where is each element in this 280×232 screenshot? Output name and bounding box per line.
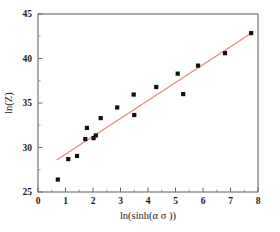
data-point bbox=[132, 113, 136, 117]
data-point bbox=[115, 105, 119, 109]
x-axis-major-ticks bbox=[38, 188, 258, 193]
x-axis-title: ln(sinh(α σ )) bbox=[120, 210, 177, 222]
x-tick-label: 5 bbox=[173, 196, 178, 206]
data-point bbox=[196, 64, 200, 68]
y-tick-label: 45 bbox=[23, 9, 33, 19]
x-tick-label: 2 bbox=[91, 196, 96, 206]
y-tick-label: 40 bbox=[23, 54, 33, 64]
plot-frame bbox=[38, 14, 258, 192]
x-tick-label: 8 bbox=[256, 196, 261, 206]
data-point bbox=[223, 51, 227, 55]
y-tick-label: 25 bbox=[23, 187, 33, 197]
data-point-markers bbox=[56, 31, 254, 182]
x-axis-tick-labels: 012345678 bbox=[36, 196, 261, 206]
x-tick-label: 4 bbox=[146, 196, 151, 206]
y-axis-major-ticks bbox=[38, 14, 43, 192]
data-point bbox=[56, 177, 60, 181]
data-point bbox=[99, 116, 103, 120]
y-tick-label: 35 bbox=[23, 98, 33, 108]
data-point bbox=[181, 92, 185, 96]
scatter-plot: 012345678 2530354045 ln(sinh(α σ )) ln(Z… bbox=[0, 0, 280, 232]
x-tick-label: 3 bbox=[118, 196, 123, 206]
data-point bbox=[75, 154, 79, 158]
data-point bbox=[83, 137, 87, 141]
data-point bbox=[176, 72, 180, 76]
y-tick-label: 30 bbox=[23, 143, 33, 153]
x-tick-label: 7 bbox=[228, 196, 233, 206]
chart-figure: 012345678 2530354045 ln(sinh(α σ )) ln(Z… bbox=[0, 0, 280, 232]
data-point bbox=[132, 92, 136, 96]
data-point bbox=[66, 157, 70, 161]
y-axis-tick-labels: 2530354045 bbox=[23, 9, 33, 197]
x-tick-label: 0 bbox=[36, 196, 41, 206]
x-tick-label: 1 bbox=[63, 196, 68, 206]
data-point bbox=[85, 126, 89, 130]
x-tick-label: 6 bbox=[201, 196, 206, 206]
data-point bbox=[94, 133, 98, 137]
data-point bbox=[249, 31, 253, 35]
data-point bbox=[154, 85, 158, 89]
y-axis-title: ln(Z) bbox=[3, 92, 15, 114]
